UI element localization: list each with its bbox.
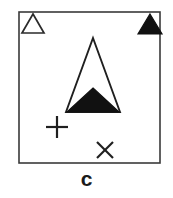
figure-caption: c xyxy=(0,166,173,192)
figure-panel-c: c xyxy=(0,0,173,198)
